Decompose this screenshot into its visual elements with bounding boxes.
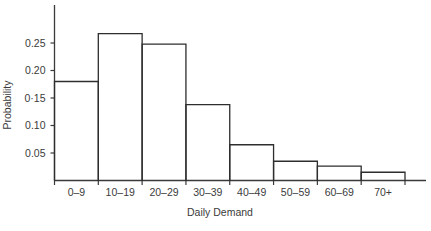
chart-canvas: 0.050.100·150.200.25 0–910–1920–2930–394… (0, 0, 431, 231)
x-axis-tick-group (55, 181, 406, 186)
bar-group (55, 34, 406, 181)
y-axis-title: Probability (1, 80, 13, 130)
x-axis-tick-label: 50–59 (281, 186, 310, 198)
x-axis-tick-label: 20–29 (149, 186, 178, 198)
x-axis-title: Daily Demand (187, 206, 253, 218)
histogram-bar (98, 34, 142, 181)
histogram-bar (317, 166, 361, 180)
x-axis-tick-label: 30–39 (193, 186, 222, 198)
x-axis-tick-label: 10–19 (106, 186, 135, 198)
y-axis-tick-label: 0.25 (25, 37, 46, 49)
histogram-bar (361, 172, 405, 180)
x-axis-tick-label: 70+ (374, 186, 392, 198)
y-axis-label-group: 0.050.100·150.200.25 (24, 37, 45, 159)
x-axis-label-group: 0–910–1920–2930–3940–4950–5960–6970+ (68, 186, 392, 198)
histogram-bar (274, 161, 318, 180)
y-axis-tick-label: 0·15 (24, 92, 45, 104)
histogram-bar (142, 44, 186, 180)
histogram-figure: 0.050.100·150.200.25 0–910–1920–2930–394… (0, 0, 431, 231)
x-axis-tick-label: 0–9 (68, 186, 86, 198)
histogram-bar (230, 145, 274, 181)
x-axis-tick-label: 40–49 (237, 186, 266, 198)
histogram-bar (55, 82, 99, 181)
x-axis-tick-label: 60–69 (325, 186, 354, 198)
y-axis-tick-label: 0.20 (25, 64, 46, 76)
y-axis-tick-label: 0.05 (25, 147, 46, 159)
y-axis-tick-label: 0.10 (25, 119, 46, 131)
histogram-bar (186, 105, 230, 181)
